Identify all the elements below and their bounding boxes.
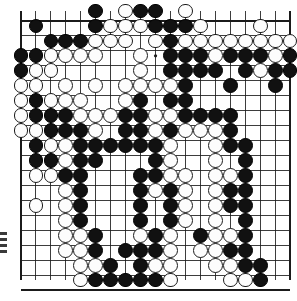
black-stone[interactable] [58,108,73,123]
white-stone[interactable] [88,258,103,273]
black-stone[interactable] [238,183,253,198]
white-stone[interactable] [29,78,44,93]
white-stone[interactable] [14,108,29,123]
black-stone[interactable] [208,63,223,78]
black-stone[interactable] [14,63,29,78]
white-stone[interactable] [148,78,163,93]
black-stone[interactable] [73,138,88,153]
stone-layer[interactable] [0,0,297,301]
black-stone[interactable] [29,138,44,153]
white-stone[interactable] [73,273,88,288]
white-stone[interactable] [148,258,163,273]
black-stone[interactable] [88,228,103,243]
black-stone[interactable] [44,153,59,168]
white-stone[interactable] [88,48,103,63]
white-stone[interactable] [268,34,283,49]
black-stone[interactable] [238,138,253,153]
white-stone[interactable] [283,34,297,49]
white-stone[interactable] [163,78,178,93]
black-stone[interactable] [178,108,193,123]
black-stone[interactable] [148,243,163,258]
black-stone[interactable] [178,19,193,34]
white-stone[interactable] [193,243,208,258]
black-stone[interactable] [253,48,268,63]
black-stone[interactable] [133,108,148,123]
white-stone[interactable] [268,48,283,63]
black-stone[interactable] [118,273,133,288]
black-stone[interactable] [118,123,133,138]
white-stone[interactable] [148,123,163,138]
black-stone[interactable] [88,19,103,34]
black-stone[interactable] [88,243,103,258]
black-stone[interactable] [133,168,148,183]
white-stone[interactable] [148,183,163,198]
black-stone[interactable] [133,138,148,153]
black-stone[interactable] [193,48,208,63]
black-stone[interactable] [73,168,88,183]
white-stone[interactable] [58,153,73,168]
white-stone[interactable] [58,78,73,93]
black-stone[interactable] [88,138,103,153]
black-stone[interactable] [148,273,163,288]
white-stone[interactable] [73,258,88,273]
white-stone[interactable] [73,228,88,243]
white-stone[interactable] [118,4,133,19]
black-stone[interactable] [148,168,163,183]
white-stone[interactable] [208,258,223,273]
black-stone[interactable] [238,153,253,168]
white-stone[interactable] [58,183,73,198]
black-stone[interactable] [133,243,148,258]
white-stone[interactable] [88,108,103,123]
white-stone[interactable] [163,108,178,123]
go-board[interactable] [0,0,297,301]
white-stone[interactable] [14,123,29,138]
white-stone[interactable] [163,138,178,153]
black-stone[interactable] [268,63,283,78]
white-stone[interactable] [223,273,238,288]
white-stone[interactable] [118,19,133,34]
white-stone[interactable] [133,48,148,63]
white-stone[interactable] [208,213,223,228]
black-stone[interactable] [223,198,238,213]
white-stone[interactable] [58,198,73,213]
black-stone[interactable] [133,93,148,108]
white-stone[interactable] [178,4,193,19]
white-stone[interactable] [208,228,223,243]
black-stone[interactable] [193,228,208,243]
black-stone[interactable] [253,273,268,288]
black-stone[interactable] [148,138,163,153]
white-stone[interactable] [223,228,238,243]
white-stone[interactable] [73,93,88,108]
black-stone[interactable] [133,258,148,273]
black-stone[interactable] [103,273,118,288]
white-stone[interactable] [103,108,118,123]
white-stone[interactable] [29,123,44,138]
black-stone[interactable] [223,78,238,93]
black-stone[interactable] [148,4,163,19]
white-stone[interactable] [58,228,73,243]
black-stone[interactable] [58,123,73,138]
black-stone[interactable] [118,108,133,123]
white-stone[interactable] [44,168,59,183]
black-stone[interactable] [238,243,253,258]
black-stone[interactable] [238,228,253,243]
white-stone[interactable] [208,198,223,213]
black-stone[interactable] [133,123,148,138]
black-stone[interactable] [178,63,193,78]
black-stone[interactable] [223,48,238,63]
black-stone[interactable] [283,48,297,63]
white-stone[interactable] [163,258,178,273]
black-stone[interactable] [44,123,59,138]
black-stone[interactable] [163,34,178,49]
white-stone[interactable] [178,34,193,49]
black-stone[interactable] [178,48,193,63]
white-stone[interactable] [88,123,103,138]
white-stone[interactable] [148,34,163,49]
white-stone[interactable] [238,34,253,49]
black-stone[interactable] [14,48,29,63]
white-stone[interactable] [44,93,59,108]
white-stone[interactable] [193,34,208,49]
white-stone[interactable] [178,213,193,228]
black-stone[interactable] [133,213,148,228]
black-stone[interactable] [208,108,223,123]
